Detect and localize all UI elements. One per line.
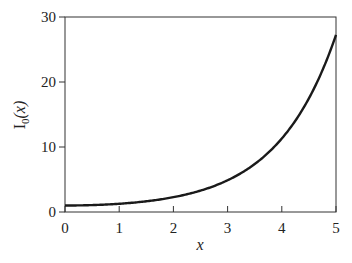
x-axis-label: x <box>195 236 203 253</box>
plot-frame <box>65 17 336 212</box>
svg-text:I0(x): I0(x) <box>11 101 31 130</box>
y-axis-label-arg: (x) <box>11 101 29 119</box>
x-tick-label: 2 <box>170 220 178 236</box>
chart: 0102030 012345 x I0(x) <box>0 0 352 263</box>
x-axis-ticks: 012345 <box>61 206 340 236</box>
x-tick-label: 3 <box>224 220 232 236</box>
y-axis-label: I0(x) <box>11 101 31 130</box>
y-tick-label: 20 <box>41 74 56 90</box>
y-tick-label: 10 <box>41 139 56 155</box>
x-tick-label: 4 <box>278 220 286 236</box>
y-tick-label: 0 <box>49 204 57 220</box>
y-axis-ticks: 0102030 <box>41 9 65 220</box>
y-tick-label: 30 <box>41 9 56 25</box>
x-tick-label: 5 <box>332 220 340 236</box>
x-tick-label: 1 <box>115 220 123 236</box>
data-line <box>65 35 336 206</box>
x-tick-label: 0 <box>61 220 69 236</box>
